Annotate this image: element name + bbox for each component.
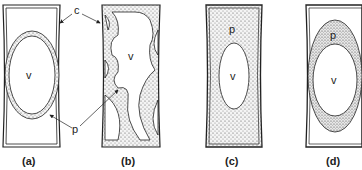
vacuole-a [9, 36, 55, 114]
caption-d: (d) [326, 155, 340, 167]
protoplasm-label-d: p [330, 29, 336, 41]
cell-wall-label: c [74, 4, 80, 16]
protoplasm-label: p [72, 123, 78, 135]
vacuole-label-d: v [331, 74, 337, 86]
cell-diagram: v (a) v (b) c p p v (c) p v [0, 0, 362, 170]
vacuole-label-a: v [26, 69, 32, 81]
caption-b: (b) [121, 155, 135, 167]
panel-d: p v (d) [306, 5, 362, 167]
caption-a: (a) [22, 155, 36, 167]
protoplasm-label-c: p [229, 23, 235, 35]
panel-b: v (b) [102, 5, 160, 167]
panel-a: v (a) [3, 5, 60, 167]
vacuole-label-b: v [128, 50, 134, 62]
caption-c: (c) [225, 155, 239, 167]
panel-c: p v (c) [206, 5, 262, 167]
vacuole-label-c: v [230, 70, 236, 82]
